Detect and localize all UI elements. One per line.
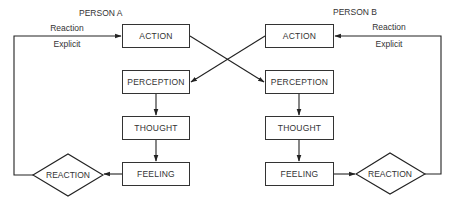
person-a-title: PERSON A bbox=[79, 8, 122, 18]
b-thought-box: THOUGHT bbox=[265, 116, 334, 140]
a-thought-label: THOUGHT bbox=[134, 123, 177, 133]
b-reaction-label: REACTION bbox=[368, 169, 412, 179]
b-perception-label: PERCEPTION bbox=[271, 77, 328, 87]
a-feeling-box: FEELING bbox=[122, 162, 190, 186]
person-b-title: PERSON B bbox=[333, 7, 377, 17]
b-action-box: ACTION bbox=[265, 24, 334, 48]
a-feedback-label-reaction: Reaction bbox=[50, 23, 84, 33]
b-action-label: ACTION bbox=[283, 31, 316, 41]
edge-b-reaction-to-action bbox=[335, 36, 441, 174]
a-reaction-label: REACTION bbox=[46, 170, 90, 180]
a-action-box: ACTION bbox=[122, 24, 190, 48]
a-thought-box: THOUGHT bbox=[122, 116, 190, 140]
a-perception-box: PERCEPTION bbox=[122, 70, 190, 94]
b-feeling-box: FEELING bbox=[265, 162, 334, 186]
a-perception-label: PERCEPTION bbox=[127, 77, 184, 87]
a-action-label: ACTION bbox=[139, 31, 172, 41]
a-feedback-label-explicit: Explicit bbox=[54, 39, 81, 49]
a-feeling-label: FEELING bbox=[137, 169, 175, 179]
b-feedback-label-reaction: Reaction bbox=[372, 22, 406, 32]
b-feedback-label-explicit: Explicit bbox=[376, 39, 403, 49]
b-thought-label: THOUGHT bbox=[278, 123, 321, 133]
b-feeling-label: FEELING bbox=[281, 169, 319, 179]
b-perception-box: PERCEPTION bbox=[265, 70, 334, 94]
